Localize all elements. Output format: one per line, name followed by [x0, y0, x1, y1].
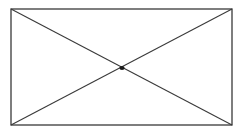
- center-intersection-dot: [119, 66, 124, 70]
- diagram-canvas: [0, 0, 240, 133]
